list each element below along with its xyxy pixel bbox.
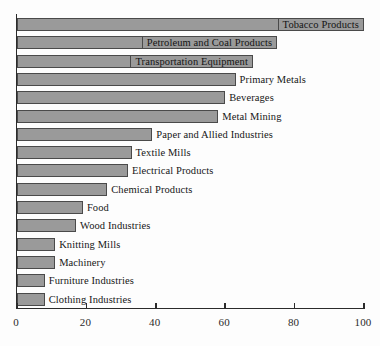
bar-label: Metal Mining (218, 109, 281, 124)
bar-row: Wood Industries (17, 219, 364, 232)
x-axis-tick (86, 303, 88, 309)
bar-label: Primary Metals (236, 72, 306, 87)
x-axis-tick-label: 0 (0, 316, 36, 328)
x-axis-tick (155, 303, 157, 309)
bar-row: Metal Mining (17, 110, 364, 123)
x-axis-tick (363, 303, 365, 309)
bar (17, 146, 132, 159)
x-axis-tick-label: 20 (65, 316, 105, 328)
bar (17, 110, 218, 123)
bar (17, 293, 45, 306)
bar-chart: Tobacco ProductsPetroleum and Coal Produ… (0, 0, 380, 346)
bar (17, 201, 83, 214)
bar-row: Knitting Mills (17, 238, 364, 251)
bar-row: Electrical Products (17, 164, 364, 177)
bar-label: Food (83, 200, 109, 215)
bar-label: Knitting Mills (55, 237, 120, 252)
bar-label: Tobacco Products (278, 18, 364, 31)
bar-row: Machinery (17, 256, 364, 269)
bar-row: Petroleum and Coal Products (17, 36, 364, 49)
plot-area: Tobacco ProductsPetroleum and Coal Produ… (16, 14, 363, 309)
bar-label: Petroleum and Coal Products (142, 36, 277, 49)
bar-label: Electrical Products (128, 163, 214, 178)
bar-row: Tobacco Products (17, 18, 364, 31)
bar-row: Furniture Industries (17, 274, 364, 287)
bar-label: Machinery (55, 255, 105, 270)
bar-label: Beverages (225, 90, 274, 105)
bar (17, 274, 45, 287)
bar (17, 183, 107, 196)
bar (17, 73, 236, 86)
bar (17, 91, 225, 104)
x-axis-tick-label: 40 (135, 316, 175, 328)
bar-label: Furniture Industries (45, 273, 134, 288)
bar-row: Food (17, 201, 364, 214)
bar (17, 238, 55, 251)
bar-label: Chemical Products (107, 182, 192, 197)
x-axis-tick (224, 303, 226, 309)
x-axis-tick-label: 60 (204, 316, 244, 328)
bar (17, 164, 128, 177)
bar-label: Clothing Industries (45, 292, 132, 307)
bar-row: Paper and Allied Industries (17, 128, 364, 141)
bar-label: Transportation Equipment (130, 55, 253, 68)
bar-label: Wood Industries (76, 218, 150, 233)
x-axis-tick (294, 303, 296, 309)
bar-label: Textile Mills (132, 145, 191, 160)
x-axis-tick-label: 80 (274, 316, 314, 328)
bar (17, 256, 55, 269)
bar-row: Beverages (17, 91, 364, 104)
x-axis-tick-label: 100 (343, 316, 380, 328)
bar-row: Chemical Products (17, 183, 364, 196)
bar-label: Paper and Allied Industries (152, 127, 273, 142)
bar-row: Primary Metals (17, 73, 364, 86)
bar (17, 128, 152, 141)
bar (17, 219, 76, 232)
bar-row: Clothing Industries (17, 293, 364, 306)
bar-row: Textile Mills (17, 146, 364, 159)
bar-row: Transportation Equipment (17, 55, 364, 68)
x-axis-tick (16, 303, 18, 309)
